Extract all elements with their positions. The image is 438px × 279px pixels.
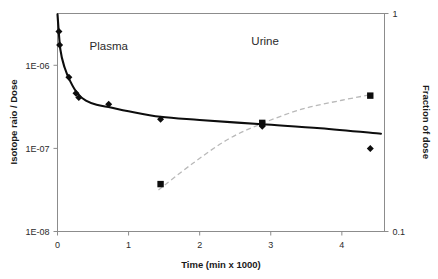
x-axis-title: Time (min x 1000) (181, 259, 261, 270)
x-tick-label: 4 (339, 240, 344, 250)
y2-tick-label: 1 (393, 9, 398, 19)
y-tick-label: 1E-06 (25, 61, 49, 71)
x-tick-label: 2 (197, 240, 202, 250)
y-tick-label: 1E-07 (25, 144, 49, 154)
chart-figure: 01234 1E-061E-071E-08 10.1 PlasmaUrine T… (0, 0, 438, 279)
isotope-ratio-chart: 01234 1E-061E-071E-08 10.1 PlasmaUrine T… (0, 0, 438, 279)
chart-background (0, 0, 438, 279)
series-label-urine: Urine (251, 35, 278, 47)
y-axis-title: Isotope raio / Dose (8, 80, 19, 165)
series-label-plasma: Plasma (90, 40, 129, 52)
x-tick-label: 0 (55, 240, 60, 250)
y2-tick-label: 0.1 (393, 227, 406, 237)
data-point-square (367, 92, 373, 98)
y2-axis-title: Fraction of dose (421, 85, 432, 159)
y-tick-label: 1E-08 (25, 227, 49, 237)
data-point-square (157, 181, 163, 187)
x-tick-label: 3 (268, 240, 273, 250)
x-tick-label: 1 (126, 240, 131, 250)
